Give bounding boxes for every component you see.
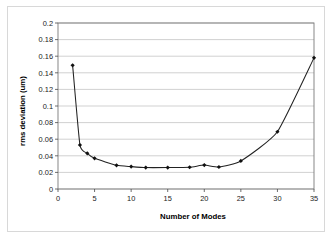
data-point-marker	[144, 165, 148, 169]
y-tick-label: 0.02	[39, 168, 53, 177]
data-point-marker	[92, 156, 96, 160]
x-tick-label: 5	[93, 194, 97, 203]
data-point-marker	[188, 165, 192, 169]
y-tick-label: 0.1	[43, 102, 53, 111]
y-tick-label: 0.06	[39, 135, 53, 144]
y-tick-label: 0.04	[39, 152, 53, 161]
y-tick-label: 0.16	[39, 52, 53, 61]
data-point-marker	[78, 143, 82, 147]
y-axis-title: rms deviation (um)	[18, 76, 27, 146]
x-axis-title: Number of Modes	[160, 212, 227, 221]
series-line-path	[73, 58, 314, 168]
x-tick-label: 20	[200, 194, 208, 203]
chart-gridlines	[58, 23, 314, 189]
y-axis-tick-labels: 00.020.040.060.080.10.120.140.160.180.2	[39, 19, 53, 194]
y-tick-label: 0.2	[43, 19, 53, 28]
y-tick-label: 0.18	[39, 35, 53, 44]
y-tick-label: 0.08	[39, 118, 53, 127]
x-tick-label: 25	[237, 194, 245, 203]
x-tick-label: 10	[127, 194, 135, 203]
data-point-marker	[217, 165, 221, 169]
chart-frame: 00.020.040.060.080.10.120.140.160.180.2 …	[7, 6, 325, 232]
data-point-marker	[129, 164, 133, 168]
rms-deviation-line-chart: 00.020.040.060.080.10.120.140.160.180.2 …	[8, 7, 326, 233]
data-series-line	[73, 58, 314, 168]
x-tick-label: 0	[56, 194, 60, 203]
y-tick-label: 0.14	[39, 69, 53, 78]
x-tick-label: 35	[310, 194, 318, 203]
y-tick-label: 0	[49, 185, 53, 194]
x-tick-label: 15	[164, 194, 172, 203]
data-point-marker	[71, 63, 75, 67]
y-tick-label: 0.12	[39, 85, 53, 94]
data-point-marker	[166, 165, 170, 169]
data-point-marker	[114, 163, 118, 167]
x-tick-label: 30	[273, 194, 281, 203]
x-axis-tick-labels: 05101520253035	[56, 194, 318, 203]
data-point-marker	[202, 163, 206, 167]
